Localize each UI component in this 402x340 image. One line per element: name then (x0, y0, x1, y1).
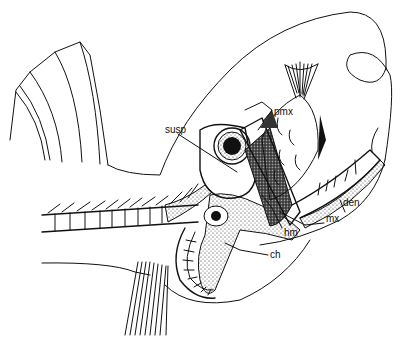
eye (214, 128, 250, 164)
label-pmx: pmx (274, 106, 293, 117)
ventral-outline (42, 263, 150, 275)
vertebral-column (42, 184, 212, 232)
pectoral-fin (125, 262, 168, 335)
dorsal-fin (10, 42, 108, 165)
label-hm: hm (284, 227, 298, 238)
label-mx: mx (326, 213, 339, 224)
label-den: den (343, 197, 360, 208)
label-susp: susp (165, 124, 187, 135)
anatomy-illustration: pmx susp den mx hm ch (0, 0, 402, 340)
figure-canvas: pmx susp den mx hm ch (0, 0, 402, 340)
throat-outline (165, 240, 310, 303)
lower-eye-pupil (211, 211, 221, 221)
label-ch: ch (270, 249, 281, 260)
